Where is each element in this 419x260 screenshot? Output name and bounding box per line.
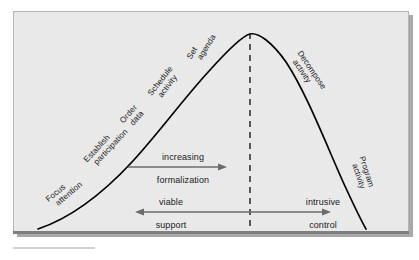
annotation-increasing: increasing	[138, 152, 228, 162]
annotation-formalization: formalization	[132, 175, 234, 185]
panel-bottom-rule	[13, 231, 409, 234]
figure-root: Focus attention Establish participation …	[0, 0, 419, 260]
annotation-intrusive: intrusive	[292, 197, 354, 207]
figure-caption-rule	[13, 247, 95, 249]
annotation-control: control	[294, 220, 352, 230]
annotation-viable: viable	[144, 197, 198, 207]
support-control-arrowhead-right	[322, 208, 331, 215]
support-control-arrowhead-left	[135, 208, 144, 215]
increasing-formalization-arrowhead-right	[218, 163, 227, 170]
annotation-support: support	[142, 220, 200, 230]
diagram-panel: Focus attention Establish participation …	[13, 11, 409, 233]
